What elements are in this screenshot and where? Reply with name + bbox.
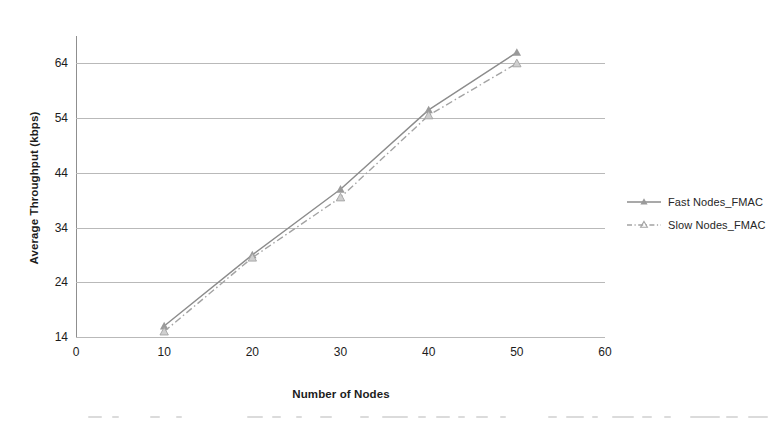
- scan-artifact: [690, 416, 720, 418]
- gridline: [76, 337, 605, 338]
- legend-label: Fast Nodes_FMAC: [668, 196, 763, 208]
- scan-artifact: [476, 416, 488, 418]
- scan-artifact: [436, 416, 450, 418]
- chart-figure: Average Throughput (kbps) 645444342414 0…: [0, 0, 781, 426]
- y-axis-tick-label: 14: [34, 330, 68, 344]
- y-axis-tick-label: 54: [34, 111, 68, 125]
- scan-artifact: [150, 416, 160, 418]
- data-point-marker: [513, 48, 521, 56]
- x-axis-tick-label: 30: [321, 345, 361, 359]
- data-point-marker: [513, 59, 521, 67]
- scan-artifact: [612, 416, 634, 418]
- scan-artifact: [112, 416, 119, 418]
- chart-legend: Fast Nodes_FMAC Slow Nodes_FMAC: [626, 190, 776, 236]
- y-axis-tick-label: 34: [34, 221, 68, 235]
- legend-label: Slow Nodes_FMAC: [668, 219, 765, 231]
- scan-artifact: [247, 416, 263, 418]
- legend-marker-solid-triangle-icon: [626, 195, 662, 209]
- scan-artifact: [566, 416, 584, 418]
- x-axis-tick-labels: 0102030405060: [76, 345, 605, 365]
- scan-artifact: [726, 416, 738, 418]
- scan-artifact-strip: [0, 414, 781, 422]
- x-axis-tick-label: 50: [497, 345, 537, 359]
- y-axis-tick-label: 64: [34, 56, 68, 70]
- scan-artifact: [272, 416, 281, 418]
- scan-artifact: [500, 416, 506, 418]
- scan-artifact: [176, 416, 182, 418]
- plot-area: [76, 36, 605, 337]
- data-point-marker: [336, 193, 344, 201]
- scan-artifact: [382, 416, 408, 418]
- scan-artifact: [360, 416, 369, 418]
- y-axis-tick-label: 44: [34, 166, 68, 180]
- x-axis-tick-label: 40: [409, 345, 449, 359]
- scan-artifact: [642, 416, 652, 418]
- x-axis-tick-label: 0: [56, 345, 96, 359]
- series-layer: [76, 36, 605, 337]
- scan-artifact: [548, 416, 557, 418]
- scan-artifact: [418, 416, 426, 418]
- scan-artifact: [664, 416, 671, 418]
- scan-artifact: [296, 416, 302, 418]
- x-axis-title: Number of Nodes: [76, 388, 606, 400]
- scan-artifact: [748, 416, 768, 418]
- scan-artifact: [592, 416, 598, 418]
- scan-artifact: [320, 416, 332, 418]
- y-axis-tick-label: 24: [34, 275, 68, 289]
- scan-artifact: [458, 416, 465, 418]
- legend-marker-dashdot-triangle-icon: [626, 218, 662, 232]
- x-axis-tick-label: 10: [144, 345, 184, 359]
- scan-artifact: [88, 416, 102, 418]
- y-axis-tick-labels: 645444342414: [28, 36, 68, 337]
- x-axis-tick-label: 20: [232, 345, 272, 359]
- legend-item-slow-nodes: Slow Nodes_FMAC: [626, 213, 776, 236]
- x-axis-tick-label: 60: [585, 345, 625, 359]
- legend-item-fast-nodes: Fast Nodes_FMAC: [626, 190, 776, 213]
